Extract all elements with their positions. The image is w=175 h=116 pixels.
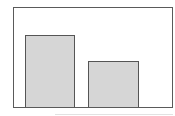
baseline-shadow xyxy=(55,114,173,115)
chart-frame xyxy=(13,7,173,108)
bar-1 xyxy=(25,35,75,107)
bar-2 xyxy=(88,61,139,107)
